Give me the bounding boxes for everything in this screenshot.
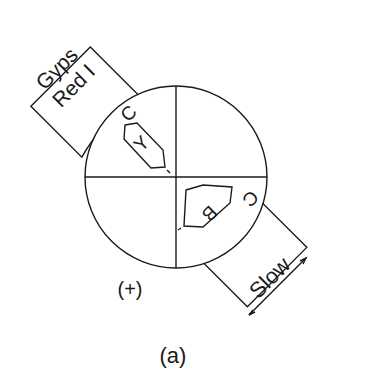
optic-sign-label: (+)	[118, 278, 143, 300]
figure-caption: (a)	[160, 343, 187, 368]
interference-figure-diagram: Gyps Red I Y C B C Slow (+) (a)	[0, 0, 370, 389]
